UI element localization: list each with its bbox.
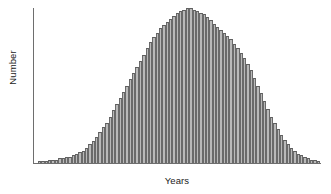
chart-screenshot: Number Years bbox=[0, 0, 331, 194]
y-axis-label: Number bbox=[7, 38, 18, 98]
y-axis-line bbox=[33, 8, 34, 164]
plot-area bbox=[38, 8, 320, 163]
x-axis-label: Years bbox=[33, 175, 321, 186]
histogram-bars bbox=[38, 8, 320, 163]
x-axis-line bbox=[33, 163, 321, 164]
